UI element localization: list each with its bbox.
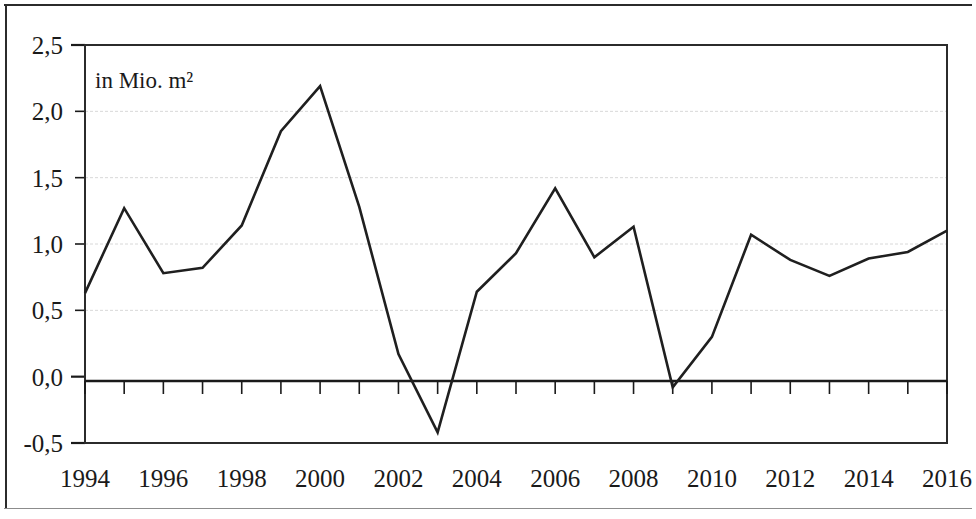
y-axis-tick-label: 2,0 [32, 98, 63, 125]
x-axis-tick-label: 1998 [217, 465, 267, 492]
x-axis-tick-label: 2014 [844, 465, 895, 492]
x-axis-tick-labels: 1994199619982000200220042006200820102012… [60, 465, 972, 492]
x-axis-tick-label: 2012 [765, 465, 815, 492]
gridlines [85, 111, 947, 310]
x-axis-tick-label: 2016 [922, 465, 972, 492]
x-axis-tick-label: 2000 [295, 465, 345, 492]
x-axis-tick-label: 1994 [60, 465, 111, 492]
y-axis-tick-label: 0,5 [32, 297, 63, 324]
y-axis-tick-label: 2,5 [32, 32, 63, 59]
y-axis-tick-label: 0,0 [32, 364, 63, 391]
y-axis-tick-label: -0,5 [23, 430, 63, 457]
x-axis-tick-label: 2004 [452, 465, 503, 492]
x-axis-tick-label: 2006 [530, 465, 580, 492]
x-axis-ticks [85, 381, 947, 394]
unit-annotation: in Mio. m² [95, 68, 193, 93]
y-axis-tick-label: 1,5 [32, 165, 63, 192]
x-axis-tick-label: 2002 [373, 465, 423, 492]
x-axis-tick-label: 1996 [138, 465, 188, 492]
y-axis-ticks [71, 45, 85, 443]
y-axis-tick-labels: 2,52,01,51,00,50,0-0,5 [23, 32, 63, 457]
y-axis-tick-label: 1,0 [32, 231, 63, 258]
chart-figure: 2,52,01,51,00,50,0-0,5 19941996199820002… [0, 0, 976, 519]
x-axis-tick-label: 2010 [687, 465, 737, 492]
x-axis-tick-label: 2008 [609, 465, 659, 492]
line-chart: 2,52,01,51,00,50,0-0,5 19941996199820002… [0, 0, 976, 519]
